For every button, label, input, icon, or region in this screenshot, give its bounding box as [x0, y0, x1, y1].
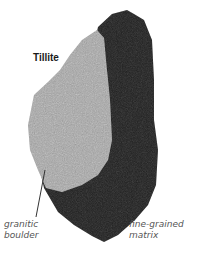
granite-leader-line — [36, 170, 45, 217]
granite-label-line1: granitic — [4, 219, 38, 230]
tillite-rock-illustration — [0, 0, 197, 256]
granite-label-line2: boulder — [4, 230, 38, 241]
matrix-label: fine-grained matrix — [129, 219, 184, 241]
granite-label: granitic boulder — [4, 219, 38, 241]
matrix-label-line1: fine-grained — [129, 219, 184, 230]
matrix-label-line2: matrix — [129, 230, 184, 241]
figure-title: Tillite — [33, 52, 59, 63]
